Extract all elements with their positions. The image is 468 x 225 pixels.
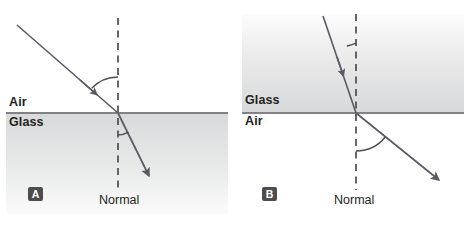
upper-medium-label-a: Air	[9, 95, 27, 109]
panel-badge-b: B	[262, 187, 277, 201]
lower-medium-label-b: Air	[245, 114, 263, 128]
refracted-ray	[356, 113, 439, 180]
panel-a: Air Glass Normal A	[0, 0, 234, 225]
refraction-diagram: Air Glass Normal A	[0, 0, 468, 225]
incident-ray-arrow	[80, 80, 97, 95]
panel-b: Glass Air Normal B	[234, 0, 468, 225]
incident-ray	[17, 25, 118, 113]
angle-of-incidence-arc	[92, 77, 118, 88]
lower-medium-label-a: Glass	[9, 115, 44, 129]
normal-label-b: Normal	[334, 193, 374, 207]
panel-badge-a: A	[28, 187, 43, 201]
upper-medium-label-b: Glass	[245, 93, 280, 107]
angle-of-refraction-arc	[356, 137, 386, 151]
normal-label-a: Normal	[99, 193, 139, 207]
